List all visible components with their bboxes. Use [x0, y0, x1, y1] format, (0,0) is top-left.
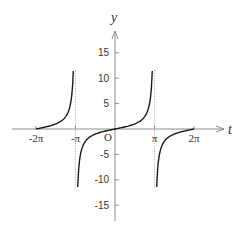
tangent-chart: 15105-5-10-15-2π-ππ2π t y O — [0, 0, 238, 229]
y-tick-label: 15 — [98, 47, 110, 58]
y-tick-label: -15 — [95, 200, 110, 211]
y-tick-label: 10 — [98, 73, 110, 84]
y-tick-label: -10 — [95, 174, 110, 185]
x-tick-label: -π — [71, 132, 81, 144]
x-tick-label: 2π — [188, 132, 200, 144]
x-axis-label: t — [228, 122, 233, 137]
y-tick-label: 5 — [103, 98, 109, 109]
axes — [12, 31, 224, 221]
curve-branch-1 — [36, 71, 73, 129]
y-axis-label: y — [109, 10, 118, 25]
x-tick-label: π — [152, 132, 158, 144]
origin-label: O — [104, 131, 112, 143]
y-tick-label: -5 — [100, 149, 109, 160]
x-tick-label: -2π — [29, 132, 44, 144]
